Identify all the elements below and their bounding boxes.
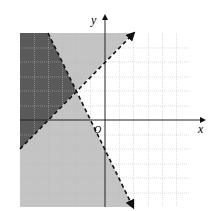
x-axis-label: x	[197, 122, 204, 136]
origin-label: O	[94, 124, 101, 135]
y-axis-label: y	[90, 13, 97, 27]
inequality-graph: x y O	[0, 0, 210, 211]
